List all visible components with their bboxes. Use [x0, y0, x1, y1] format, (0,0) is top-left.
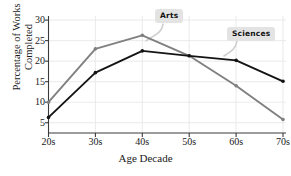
x-tick-label: 30s: [88, 136, 102, 148]
x-axis-label: Age Decade: [0, 152, 291, 165]
x-tick-label: 50s: [182, 136, 196, 148]
callout-label-arts: Arts: [155, 9, 183, 23]
x-tick-label: 20s: [42, 136, 56, 148]
x-tick-label: 60s: [229, 136, 243, 148]
callout-leader-lines: [146, 24, 237, 56]
x-tick-label: 70s: [276, 136, 290, 148]
data-series: [47, 33, 285, 121]
callout-label-sciences: Sciences: [227, 27, 275, 41]
x-axis-tick-labels: 20s30s40s50s60s70s: [0, 136, 291, 150]
x-tick-label: 40s: [135, 136, 149, 148]
chart-figure: Percentage of Works Completed 5101520253…: [0, 0, 291, 176]
